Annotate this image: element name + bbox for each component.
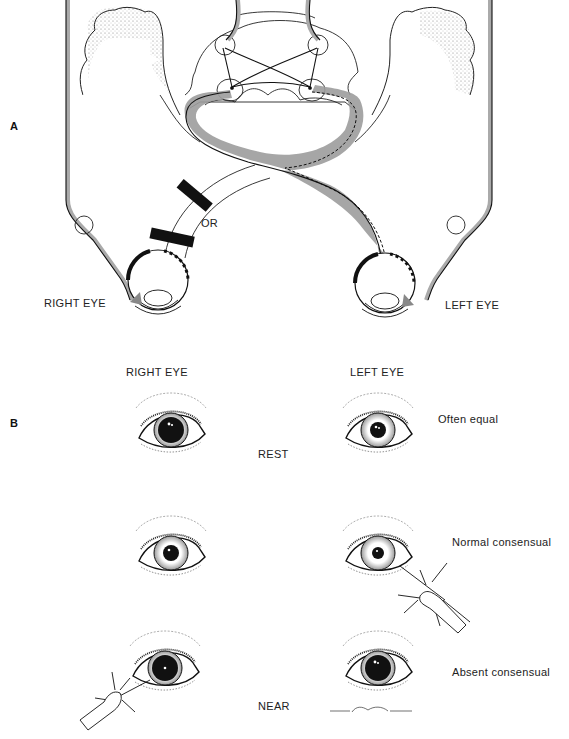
panel-a-left-eye-label: LEFT EYE bbox=[445, 299, 499, 311]
eye-absent-consensual-left bbox=[343, 631, 413, 690]
row-label-near: NEAR bbox=[258, 700, 290, 712]
posterior-commissure-connections bbox=[223, 48, 318, 89]
side-label-normal-consensual: Normal consensual bbox=[452, 536, 551, 548]
ciliary-ganglion-left bbox=[447, 216, 465, 234]
panel-b-letter: B bbox=[10, 417, 18, 429]
penlight-left bbox=[398, 563, 470, 633]
or-label: OR bbox=[201, 217, 218, 229]
eye-normal-consensual-right bbox=[136, 516, 206, 575]
right-eye-globe bbox=[128, 250, 188, 314]
panel-a-right-eye-label: RIGHT EYE bbox=[44, 297, 106, 309]
penlight-right bbox=[80, 672, 150, 730]
pupillary-pathway-diagram bbox=[0, 0, 569, 340]
eye-absent-consensual-right bbox=[130, 631, 200, 690]
side-label-often-equal: Often equal bbox=[438, 413, 498, 425]
column-header-right-eye: RIGHT EYE bbox=[126, 366, 188, 378]
row-label-rest: REST bbox=[258, 448, 289, 460]
eye-rest-right bbox=[136, 393, 206, 452]
eye-rest-left bbox=[343, 393, 413, 452]
lesion-bar-lower bbox=[149, 228, 194, 248]
column-header-left-eye: LEFT EYE bbox=[350, 366, 404, 378]
lesion-bar-upper bbox=[177, 179, 213, 212]
cerebral-cortex-left bbox=[372, 7, 475, 115]
left-eye-globe bbox=[355, 253, 415, 317]
optic-pathway-shaded bbox=[185, 85, 392, 262]
artist-signature bbox=[330, 707, 412, 712]
cerebral-cortex-right bbox=[80, 6, 180, 115]
eye-normal-consensual-left bbox=[343, 516, 413, 575]
side-label-absent-consensual: Absent consensual bbox=[452, 666, 550, 678]
